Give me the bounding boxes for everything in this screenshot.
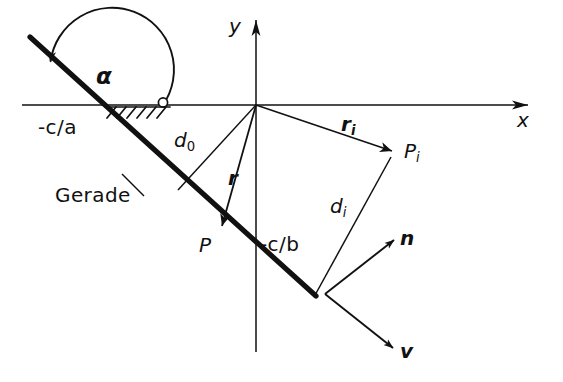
vector-n-label: n <box>400 228 414 248</box>
vector-n-arrow <box>325 240 394 294</box>
vector-r-label: r <box>228 168 238 188</box>
distance-d0-label: d0 <box>174 130 195 153</box>
distance-di-label: di <box>330 196 346 219</box>
y-intercept-label: -c/b <box>260 234 299 254</box>
distance-d0-base: d <box>174 128 187 152</box>
y-axis-label: y <box>229 16 241 36</box>
x-intercept-label: -c/a <box>38 117 77 137</box>
pivot-circle <box>158 98 167 107</box>
vector-v-arrow <box>325 294 393 348</box>
point-p-label: P <box>199 235 211 255</box>
geometry-figure: y x α -c/a -c/b Gerade P Pi d0 di r ri n… <box>0 0 563 382</box>
x-axis-label: x <box>517 110 529 130</box>
angle-alpha-label: α <box>96 65 112 88</box>
vector-ri-base: r <box>341 112 351 136</box>
vector-ri-label: ri <box>341 114 355 137</box>
point-pi-subscript: i <box>416 150 420 165</box>
vector-ri-arrow <box>256 105 392 151</box>
vector-ri-subscript: i <box>351 123 356 138</box>
point-pi-label: Pi <box>404 141 420 164</box>
distance-di-base: d <box>330 194 343 218</box>
vector-v-label: v <box>400 341 413 361</box>
distance-d0-subscript: 0 <box>187 139 195 154</box>
distance-di-subscript: i <box>343 205 347 220</box>
point-pi-base: P <box>404 139 416 163</box>
distance-di-line <box>314 157 391 297</box>
angle-arc-alpha <box>51 8 174 107</box>
gerade-label: Gerade <box>55 185 131 205</box>
